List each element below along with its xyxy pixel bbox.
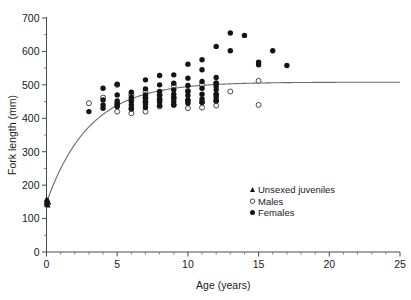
data-point-female [228,48,233,53]
chart-canvas: 01002003004005006007000510152025Age (yea… [0,0,411,300]
data-point-female [185,75,190,80]
data-point-female [213,44,218,49]
y-axis-title: Fork length (mm) [6,95,18,175]
data-point-female [100,106,105,111]
y-tick-label: 600 [22,45,40,57]
data-point-female [143,86,148,91]
data-point-male [86,101,91,106]
data-point-female [86,109,91,114]
data-point-female [199,92,204,97]
data-point-female [270,48,275,53]
data-point-female [199,67,204,72]
data-point-female [284,63,289,68]
data-point-female [242,33,247,38]
data-point-female [185,61,190,66]
legend-label: Unsexed juveniles [258,184,335,195]
y-tick-label: 0 [34,246,40,258]
data-point-female [171,72,176,77]
data-point-female [129,90,134,95]
data-point-male [256,78,261,83]
legend-label: Males [258,196,284,207]
data-point-female [115,104,120,109]
data-point-female [100,86,105,91]
data-point-female [157,82,162,87]
y-tick-label: 100 [22,212,40,224]
data-point-female [185,83,190,88]
data-point-female [129,106,134,111]
data-point-female [199,100,204,105]
y-tick-label: 500 [22,79,40,91]
data-point-male [228,89,233,94]
y-tick-label: 400 [22,112,40,124]
data-point-female [256,62,261,67]
data-point-female [157,73,162,78]
legend-marker-females [250,210,255,215]
data-point-female [100,97,105,102]
growth-curve-chart: 01002003004005006007000510152025Age (yea… [0,0,411,300]
legend-marker-males [250,199,255,204]
data-point-female [185,101,190,106]
x-tick-label: 25 [394,258,406,270]
data-point-male [200,105,205,110]
x-tick-label: 10 [182,258,194,270]
x-tick-label: 0 [44,258,50,270]
data-point-female [115,92,120,97]
data-point-female [199,86,204,91]
data-point-female [171,80,176,85]
data-point-male [256,102,261,107]
data-point-female [143,77,148,82]
data-point-female [228,30,233,35]
legend-marker-juveniles [250,187,255,192]
x-tick-label: 15 [253,258,265,270]
data-point-female [171,102,176,107]
y-tick-label: 200 [22,179,40,191]
data-point-female [213,75,218,80]
legend-label: Females [258,207,295,218]
fitted-growth-curve [47,82,401,202]
x-axis-title: Age (years) [196,279,250,291]
data-point-female [199,79,204,84]
x-tick-label: 20 [323,258,335,270]
data-point-female [199,57,204,62]
data-point-male [214,103,219,108]
data-point-female [213,98,218,103]
data-point-female [157,103,162,108]
data-point-female [115,81,120,86]
y-tick-label: 300 [22,146,40,158]
x-tick-label: 5 [114,258,120,270]
data-point-male [115,109,120,114]
y-tick-label: 700 [22,12,40,24]
data-point-female [143,105,148,110]
data-point-male [185,106,190,111]
